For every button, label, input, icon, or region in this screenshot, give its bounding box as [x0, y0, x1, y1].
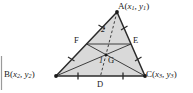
ratio-label-gd: 1: [99, 57, 103, 65]
geometry-figure: A(x1, y1) B(x2, y2) C(x3, y3) F E D G 2 …: [0, 0, 193, 93]
vertex-label-c: C(x3, y3): [146, 70, 177, 79]
centroid-label-g: G: [108, 56, 114, 65]
vertex-label-b: B(x2, y2): [4, 70, 35, 79]
ratio-label-ag: 2: [101, 26, 105, 34]
midpoint-label-f: F: [74, 36, 79, 45]
vertex-dot-b: [54, 74, 58, 78]
vertex-label-a: A(x1, y1): [118, 2, 149, 11]
centroid-dot-g: [105, 54, 108, 57]
midpoint-label-d: D: [97, 80, 103, 89]
midpoint-label-e: E: [133, 36, 138, 45]
